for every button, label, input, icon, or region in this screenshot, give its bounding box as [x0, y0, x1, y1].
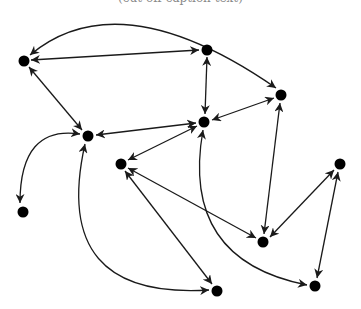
node-F	[18, 207, 29, 218]
edge-A-C	[30, 24, 276, 88]
node-C	[276, 90, 287, 101]
node-K	[310, 281, 321, 292]
nodes	[18, 45, 346, 297]
edge-G-J	[125, 171, 212, 284]
edge-H-K	[317, 172, 338, 278]
edge-E-K	[199, 130, 307, 285]
edge-C-E	[212, 98, 274, 120]
node-A	[19, 56, 30, 67]
node-J	[212, 286, 223, 297]
node-D	[83, 131, 94, 142]
edge-D-J	[79, 144, 209, 291]
edge-G-I	[128, 168, 256, 238]
edge-I-H	[270, 170, 334, 237]
node-I	[258, 237, 269, 248]
node-G	[116, 159, 127, 170]
graph-diagram	[0, 0, 361, 309]
edge-A-D	[29, 67, 82, 130]
node-B	[202, 45, 213, 56]
edge-C-I	[264, 103, 280, 234]
edge-A-B	[31, 50, 199, 60]
node-H	[335, 159, 346, 170]
edge-B-E	[205, 57, 207, 114]
edges	[20, 24, 338, 290]
node-E	[199, 117, 210, 128]
edge-D-F	[20, 133, 80, 203]
edge-E-G	[128, 126, 197, 160]
